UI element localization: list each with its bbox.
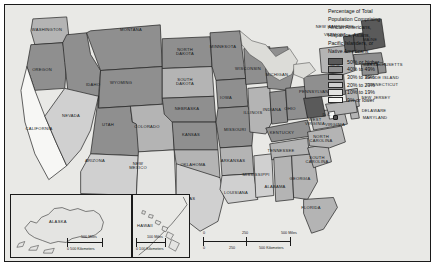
alaska-scalebar: 500 Miles 0 500 Kilometers [67, 235, 123, 255]
hawaii-scale-km: 0 100 Kilometers [136, 247, 164, 251]
legend-swatch-1 [328, 66, 343, 72]
state-south-dakota[interactable] [162, 67, 214, 99]
legend-swatch-0 [328, 58, 343, 64]
main-scale-km-max: 500 Kilometers [259, 246, 284, 250]
hawaii-inset: HAWAII 100 Miles 0 100 Kilometers [132, 194, 190, 258]
state-washington[interactable] [31, 17, 69, 45]
legend-entry: 9% or lower [328, 97, 425, 103]
legend-label-1: 40% to 49% [347, 66, 375, 72]
state-kansas[interactable] [172, 122, 218, 150]
state-mississippi[interactable] [254, 154, 274, 198]
hawaii-scale-miles: 100 Miles [147, 235, 163, 239]
state-alabama[interactable] [274, 156, 294, 202]
main-scale-km-mid: 250 [229, 246, 235, 250]
legend-label-3: 20% to 29% [347, 82, 375, 88]
state-arizona[interactable] [81, 154, 139, 196]
state-montana[interactable] [87, 25, 163, 71]
legend-entry: 30% to 39% [328, 74, 425, 80]
legend-label-0: 50% or higher [347, 59, 379, 65]
main-scale-km-0: 0 [203, 246, 205, 250]
legend-title: Percentage of Total Population Comprisin… [328, 8, 425, 55]
state-indiana[interactable] [270, 90, 288, 124]
state-new-mexico[interactable] [136, 150, 176, 198]
dc-marker [333, 115, 338, 120]
state-arkansas[interactable] [220, 146, 254, 176]
alaska-scale-km: 0 500 Kilometers [67, 247, 95, 251]
legend-entries: 50% or higher40% to 49%30% to 39%20% to … [328, 58, 425, 103]
state-iowa[interactable] [216, 78, 248, 108]
hawaii-label: HAWAII [137, 223, 153, 228]
legend-entry: 40% to 49% [328, 66, 425, 72]
state-minnesota[interactable] [210, 31, 246, 81]
map-legend: Percentage of Total Population Comprisin… [328, 8, 425, 105]
state-north-dakota[interactable] [162, 37, 212, 69]
legend-swatch-3 [328, 82, 343, 88]
state-louisiana[interactable] [220, 174, 258, 204]
legend-entry: 10% to 19% [328, 89, 425, 95]
legend-swatch-5 [328, 97, 343, 103]
legend-entry: 20% to 29% [328, 82, 425, 88]
legend-label-4: 10% to 19% [347, 89, 375, 95]
hawaii-scalebar: 100 Miles 0 100 Kilometers [136, 235, 188, 255]
main-scalebar: 0 250 500 Miles 0 250 500 Kilometers [203, 231, 307, 255]
legend-swatch-4 [328, 89, 343, 95]
alaska-inset: ALASKA 500 Miles 0 500 Kilometers [10, 194, 132, 258]
main-scale-miles-mid: 250 [242, 231, 248, 235]
alaska-scale-miles: 500 Miles [81, 235, 97, 239]
legend-swatch-2 [328, 74, 343, 80]
map-frame: WASHINGTONOREGONCALIFORNIAIDAHONEVADAMON… [4, 4, 431, 262]
state-missouri[interactable] [216, 106, 254, 148]
legend-entry: 50% or higher [328, 58, 425, 64]
legend-label-2: 30% to 39% [347, 74, 375, 80]
main-scale-miles-0: 0 [203, 231, 205, 235]
map-screenshot: WASHINGTONOREGONCALIFORNIAIDAHONEVADAMON… [0, 0, 437, 269]
state-nebraska[interactable] [162, 96, 216, 122]
state-florida[interactable] [304, 197, 338, 233]
state-west-virginia[interactable] [304, 96, 326, 118]
alaska-label: ALASKA [49, 219, 67, 224]
state-illinois[interactable] [248, 86, 272, 134]
state-oregon[interactable] [27, 43, 67, 91]
legend-label-5: 9% or lower [347, 97, 374, 103]
main-scale-miles-max: 500 Miles [281, 231, 297, 235]
state-wyoming[interactable] [99, 67, 163, 109]
